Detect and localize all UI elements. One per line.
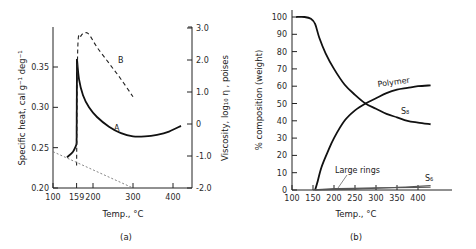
x-tick-label: 200 — [85, 193, 100, 202]
x-axis-title-b: Temp., °C — [335, 209, 377, 219]
series-a — [53, 33, 181, 188]
y-tick-label: 90 — [277, 30, 287, 39]
x-tick-label: 300 — [368, 194, 383, 203]
panel-a: 100159200300400 0.200.250.300.35 3.02.01… — [17, 24, 230, 242]
y-tick-label: 100 — [272, 13, 287, 22]
x-tick-label: 200 — [326, 194, 341, 203]
y-ticks-right-a: 3.02.01.00-1.0-2.0 — [187, 24, 212, 193]
y-tick-right-label: -2.0 — [196, 184, 212, 193]
y-tick-label: 0 — [282, 186, 287, 195]
x-ticks-a: 100159200300400 — [45, 183, 180, 202]
x-tick-label: 100 — [45, 193, 60, 202]
y-ticks-b: 0102030405060708090100 — [272, 13, 297, 195]
label-s6: S₆ — [425, 174, 433, 183]
y-axis-title-left-a: Specific heat, cal g⁻¹ deg⁻¹ — [17, 50, 27, 165]
series-b — [296, 17, 430, 190]
y-tick-right-label: 3.0 — [196, 24, 209, 33]
y-axis-title-right-a: Viscosity, log₁₀ η , poises — [220, 55, 230, 161]
y-tick-right-label: 0 — [196, 120, 201, 129]
label-curve-b-text: B — [118, 56, 124, 65]
x-tick-label: 250 — [347, 194, 362, 203]
x-tick-label: 300 — [125, 193, 140, 202]
y-ticks-left-a: 0.200.250.300.35 — [31, 63, 58, 193]
panel-label-b: (b) — [350, 232, 362, 242]
y-tick-label: 50 — [277, 100, 287, 109]
x-tick-label: 150 — [305, 194, 320, 203]
axes-a — [53, 27, 192, 188]
y-axis-title-b: % composition (weight) — [254, 50, 264, 151]
large-rings-pointer — [338, 175, 347, 188]
y-tick-label: 80 — [277, 48, 287, 57]
label-curve-a: A — [114, 124, 120, 133]
curve-a — [77, 59, 181, 137]
panel-b: 100150200250300350400 010203040506070809… — [254, 10, 452, 242]
y-tick-label: 60 — [277, 82, 287, 91]
y-tick-label: 0.25 — [31, 144, 49, 153]
curve-s8 — [296, 17, 430, 124]
x-tick-label: 400 — [410, 194, 425, 203]
x-tick-label: 100 — [284, 194, 299, 203]
y-tick-label: 0.35 — [31, 63, 49, 72]
label-polymer: Polymer — [377, 75, 411, 89]
x-axis-title-a: Temp., °C — [102, 209, 144, 219]
y-tick-right-label: -1.0 — [196, 152, 212, 161]
y-tick-right-label: 1.0 — [196, 88, 209, 97]
label-large-rings: Large rings — [335, 166, 380, 175]
y-tick-label: 20 — [277, 151, 287, 160]
x-tick-label: 350 — [389, 194, 404, 203]
baseline-dotted — [53, 152, 133, 188]
curve-a-pre — [67, 144, 77, 158]
x-tick-label: 159 — [69, 193, 84, 202]
figure: 100159200300400 0.200.250.300.35 3.02.01… — [0, 0, 476, 249]
y-tick-right-label: 2.0 — [196, 56, 209, 65]
y-tick-label: 40 — [277, 117, 287, 126]
y-tick-label: 0.30 — [31, 103, 49, 112]
label-s8: S₈ — [401, 107, 409, 116]
y-tick-label: 10 — [277, 169, 287, 178]
y-tick-label: 70 — [277, 65, 287, 74]
panel-label-a: (a) — [120, 232, 132, 242]
y-tick-label: 30 — [277, 134, 287, 143]
y-tick-label: 0.20 — [31, 184, 49, 193]
x-tick-label: 400 — [165, 193, 180, 202]
